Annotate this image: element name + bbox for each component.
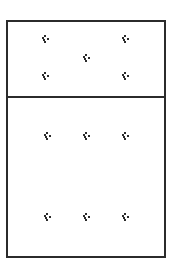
dot-cluster-icon (82, 132, 91, 141)
dot-cluster-icon (121, 35, 130, 44)
dot-cluster-icon (43, 213, 52, 222)
dot-cluster-icon (82, 54, 91, 63)
bottom-section (8, 98, 164, 256)
dot-cluster-icon (43, 132, 52, 141)
dot-cluster-icon (121, 213, 130, 222)
dot-cluster-icon (121, 72, 130, 81)
dot-cluster-icon (41, 35, 50, 44)
top-section (8, 22, 164, 98)
dot-cluster-icon (82, 213, 91, 222)
dot-cluster-icon (121, 132, 130, 141)
diagram-frame (6, 20, 166, 258)
dot-cluster-icon (41, 72, 50, 81)
